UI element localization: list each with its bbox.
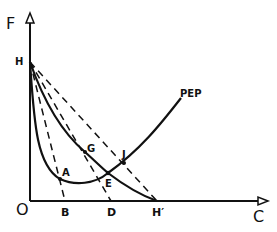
x-axis-arrow-icon (258, 197, 268, 205)
point-b-label: B (61, 206, 69, 219)
point-j-label: J (121, 149, 126, 160)
y-axis-label: F (6, 14, 15, 33)
y-axis-arrow-icon (26, 13, 34, 23)
point-j-marker (122, 161, 126, 165)
dashed-line-hd (30, 62, 111, 201)
origin-label: O (16, 200, 29, 219)
point-h-prime-label: H′ (152, 206, 164, 219)
point-a-label: A (62, 167, 70, 178)
x-axis-label: C (253, 207, 264, 226)
point-e-marker (106, 171, 110, 175)
point-g-label: G (87, 143, 95, 154)
point-d-label: D (107, 206, 116, 219)
point-h-label: H (15, 56, 23, 67)
point-e-label: E (105, 178, 112, 189)
pep-curve (30, 62, 181, 183)
pep-curve-label: PEP (180, 88, 202, 99)
diagram-canvas: F C O H B D H′ A G E J PEP (0, 0, 277, 232)
